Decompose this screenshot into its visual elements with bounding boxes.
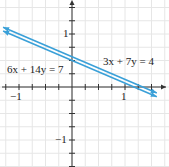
x-tick-label-1: 1 bbox=[121, 91, 127, 102]
coordinate-plane bbox=[0, 0, 169, 167]
equation-label-2: 3x + 7y = 4 bbox=[103, 56, 154, 67]
x-tick-label-neg1: −1 bbox=[10, 91, 22, 102]
equation-label-1: 6x + 14y = 7 bbox=[7, 64, 63, 75]
y-tick-label-neg1: −1 bbox=[55, 134, 67, 145]
y-tick-label-1: 1 bbox=[63, 28, 69, 39]
